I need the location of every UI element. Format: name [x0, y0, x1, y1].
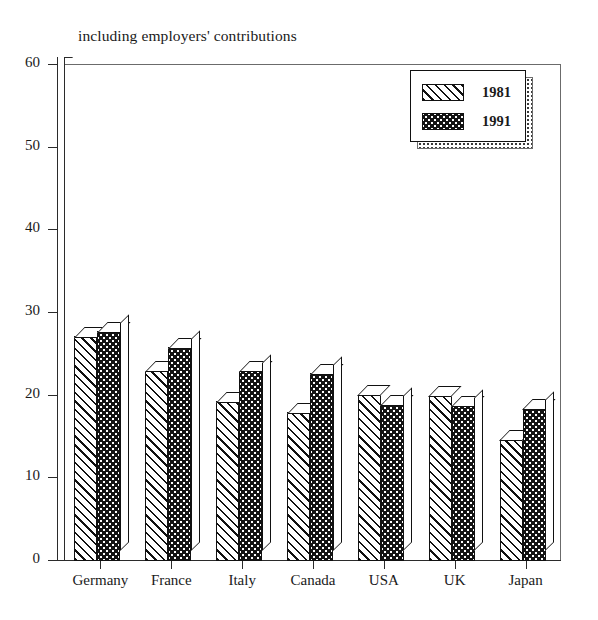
x-tick-label-uk: UK	[444, 572, 466, 589]
x-tick-label-france: France	[151, 572, 192, 589]
x-tick-usa	[384, 560, 385, 569]
bar-usa-1981	[358, 395, 381, 561]
y-tick-40	[48, 229, 57, 230]
bar-side-face	[474, 389, 483, 551]
bar-side-face	[262, 354, 271, 551]
bar-uk-1981	[429, 396, 452, 561]
y-tick-10	[48, 477, 57, 478]
legend-swatch-1981	[422, 84, 464, 101]
y-tick-20	[48, 395, 57, 396]
bar-top-face	[357, 385, 391, 396]
legend-item-1991[interactable]: 1991	[422, 112, 511, 130]
legend-label-1991: 1991	[482, 113, 511, 130]
legend-swatch-1991	[422, 113, 464, 130]
bar-germany-1991	[97, 331, 120, 561]
x-tick-germany	[100, 560, 101, 569]
y-tick-label-10: 10	[12, 467, 40, 484]
bar-side-face	[403, 387, 412, 551]
bar-side-face	[191, 330, 200, 551]
bar-japan-1991	[523, 408, 546, 561]
bar-side-face	[120, 314, 129, 551]
bar-side-face	[333, 357, 342, 551]
bar-germany-1981	[74, 336, 97, 561]
bar-france-1981	[145, 371, 168, 561]
x-tick-label-usa: USA	[369, 572, 399, 589]
bar-canada-1991	[310, 373, 333, 561]
y-tick-0	[48, 560, 57, 561]
bar-italy-1981	[216, 401, 239, 561]
bar-italy-1991	[239, 371, 262, 561]
x-tick-label-canada: Canada	[291, 572, 336, 589]
y-axis-line-front	[57, 57, 58, 561]
legend: 1981 1991	[410, 70, 526, 142]
y-tick-label-30: 30	[12, 302, 40, 319]
bar-japan-1981	[500, 439, 523, 561]
x-tick-label-germany: Germany	[73, 572, 129, 589]
bar-uk-1991	[452, 406, 475, 561]
y-tick-30	[48, 312, 57, 313]
y-axis-wall	[57, 57, 65, 561]
bar-chart: including employers' contributions 01020…	[0, 0, 598, 620]
y-tick-60	[48, 64, 57, 65]
y-tick-label-20: 20	[12, 385, 40, 402]
x-tick-uk	[455, 560, 456, 569]
y-tick-label-0: 0	[12, 550, 40, 567]
x-tick-canada	[313, 560, 314, 569]
bar-canada-1981	[287, 412, 310, 561]
x-tick-japan	[526, 560, 527, 569]
x-tick-italy	[242, 560, 243, 569]
x-tick-france	[171, 560, 172, 569]
legend-item-1981[interactable]: 1981	[422, 83, 511, 101]
bar-usa-1991	[381, 404, 404, 561]
x-tick-label-italy: Italy	[228, 572, 256, 589]
chart-title: including employers' contributions	[78, 27, 297, 45]
y-tick-label-40: 40	[12, 219, 40, 236]
bar-side-face	[545, 391, 554, 551]
x-tick-label-japan: Japan	[508, 572, 542, 589]
y-tick-label-50: 50	[12, 137, 40, 154]
bar-top-face	[428, 386, 462, 397]
bar-france-1991	[168, 347, 191, 561]
y-tick-50	[48, 147, 57, 148]
y-tick-label-60: 60	[12, 54, 40, 71]
legend-label-1981: 1981	[482, 84, 511, 101]
